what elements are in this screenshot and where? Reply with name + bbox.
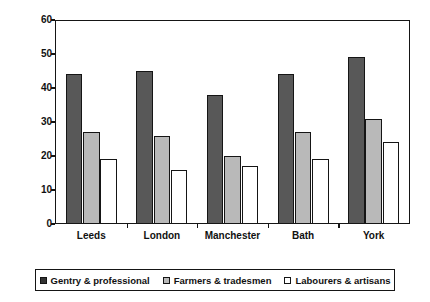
bar-chart: Average age at death 0102030405060 Leeds… — [0, 0, 430, 302]
legend-swatch-icon — [284, 277, 291, 284]
bar — [242, 166, 259, 224]
y-tick-mark — [51, 121, 55, 122]
legend-swatch-icon — [163, 277, 170, 284]
bar — [365, 119, 382, 224]
y-tick-label: 0 — [22, 218, 52, 230]
bar — [224, 156, 241, 224]
legend-label: Farmers & tradesmen — [174, 275, 272, 286]
x-tick-mark — [197, 224, 198, 228]
bar — [312, 159, 329, 224]
legend-swatch-icon — [40, 277, 47, 284]
y-tick-label: 60 — [22, 14, 52, 26]
y-tick-mark — [51, 189, 55, 190]
bar — [83, 132, 100, 224]
bar — [171, 170, 188, 224]
legend-item: Gentry & professional — [40, 275, 150, 286]
x-tick-mark — [338, 224, 339, 228]
bar-group — [207, 21, 258, 224]
y-tick-label: 10 — [22, 184, 52, 196]
x-tick-label: Leeds — [56, 230, 127, 241]
bar — [100, 159, 117, 224]
y-tick-mark — [51, 19, 55, 20]
y-tick-mark — [51, 155, 55, 156]
bar — [207, 95, 224, 224]
bar — [154, 136, 171, 224]
bar — [383, 142, 400, 224]
y-tick-label: 40 — [22, 82, 52, 94]
y-tick-label: 50 — [22, 48, 52, 60]
bar-group — [66, 21, 117, 224]
y-tick-mark — [51, 87, 55, 88]
chart-legend: Gentry & professionalFarmers & tradesmen… — [35, 269, 395, 291]
bar — [295, 132, 312, 224]
bar-group — [136, 21, 187, 224]
y-tick-label: 20 — [22, 150, 52, 162]
legend-label: Labourers & artisans — [295, 275, 390, 286]
x-tick-label: Bath — [268, 230, 339, 241]
legend-label: Gentry & professional — [51, 275, 150, 286]
bars-layer — [56, 21, 409, 224]
x-tick-mark — [268, 224, 269, 228]
x-tick-label: Manchester — [197, 230, 268, 241]
x-tick-label: London — [127, 230, 198, 241]
x-tick-mark — [127, 224, 128, 228]
legend-item: Labourers & artisans — [284, 275, 390, 286]
bar — [278, 74, 295, 224]
y-tick-label: 30 — [22, 116, 52, 128]
bar — [66, 74, 83, 224]
bar — [348, 57, 365, 224]
y-tick-mark — [51, 53, 55, 54]
bar-group — [348, 21, 399, 224]
bar — [136, 71, 153, 224]
y-tick-mark — [51, 223, 55, 224]
legend-item: Farmers & tradesmen — [163, 275, 272, 286]
x-tick-label: York — [338, 230, 409, 241]
bar-group — [278, 21, 329, 224]
